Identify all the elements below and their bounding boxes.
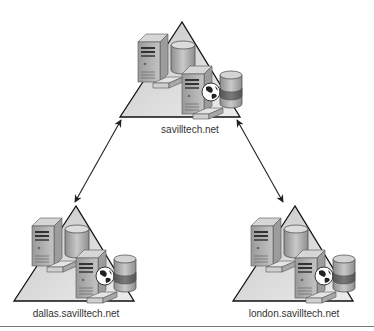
label-dallas-domain: dallas.savilltech.net xyxy=(14,308,138,319)
domain-dallas-icon xyxy=(14,206,136,303)
bottom-divider xyxy=(0,326,374,327)
label-root-domain: savilltech.net xyxy=(130,124,250,135)
domain-london-icon xyxy=(233,206,355,303)
domain-diagram xyxy=(0,0,374,331)
domain-root-icon xyxy=(120,22,242,119)
trust-arrow-root-dallas xyxy=(75,120,121,202)
label-london-domain: london.savilltech.net xyxy=(232,308,356,319)
